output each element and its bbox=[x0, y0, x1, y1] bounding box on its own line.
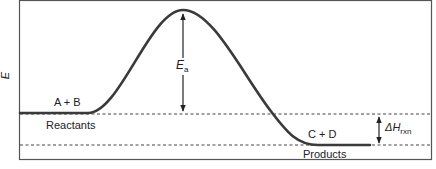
activation-energy-label: Ea bbox=[176, 58, 188, 75]
plot-frame bbox=[20, 1, 432, 160]
dh-symbol: ΔH bbox=[385, 121, 400, 133]
energy-diagram bbox=[0, 0, 436, 169]
product-caption-label: Products bbox=[303, 149, 346, 160]
reactant-species-label: A + B bbox=[54, 97, 81, 108]
product-species-label: C + D bbox=[308, 129, 336, 140]
dh-subscript: rxn bbox=[400, 127, 411, 136]
reactant-caption-label: Reactants bbox=[46, 120, 96, 131]
ea-subscript: a bbox=[184, 65, 188, 74]
y-axis-label: E bbox=[0, 72, 11, 79]
ea-symbol: E bbox=[176, 58, 184, 72]
enthalpy-change-label: ΔHrxn bbox=[385, 122, 411, 136]
